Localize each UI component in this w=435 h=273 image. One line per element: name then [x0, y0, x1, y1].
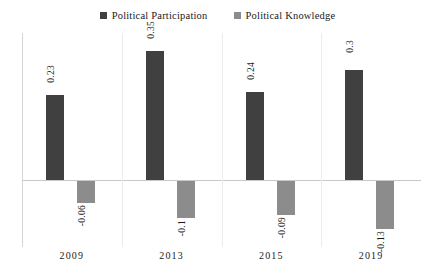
legend-swatch-political-knowledge [234, 12, 241, 19]
x-axis-tick-label: 2013 [122, 250, 222, 261]
x-axis-tick-label: 2009 [22, 250, 122, 261]
bar-value-label: 0.35 [146, 21, 156, 39]
bar-political-knowledge [77, 181, 95, 203]
bar-political-participation [246, 92, 264, 180]
bar-political-participation [345, 70, 363, 180]
x-axis-labels: 2009201320152019 [22, 250, 421, 268]
bar-value-label: -0.1 [177, 220, 187, 236]
chart-legend: Political Participation Political Knowle… [0, 10, 435, 21]
legend-label-political-knowledge: Political Knowledge [246, 10, 336, 21]
plot-area: 0.23-0.060.35-0.10.24-0.090.3-0.13 [22, 33, 421, 247]
bar-value-label: 0.23 [46, 65, 56, 83]
legend-swatch-political-participation [100, 12, 107, 19]
bar-chart: Political Participation Political Knowle… [0, 0, 435, 273]
bar-political-knowledge [277, 181, 295, 215]
bar-political-participation [46, 95, 64, 180]
legend-item-political-knowledge: Political Knowledge [234, 10, 336, 21]
bar-group: 0.35-0.1 [122, 33, 222, 247]
bar-value-label: -0.09 [277, 217, 287, 238]
bar-value-label: -0.06 [77, 205, 87, 226]
bar-value-label: 0.24 [246, 62, 256, 80]
bar-political-participation [146, 51, 164, 180]
bar-value-label: 0.3 [345, 40, 355, 53]
x-axis-tick-label: 2015 [222, 250, 322, 261]
x-axis-tick-label: 2019 [321, 250, 421, 261]
bar-group: 0.3-0.13 [321, 33, 421, 247]
bar-group: 0.23-0.06 [22, 33, 122, 247]
legend-item-political-participation: Political Participation [100, 10, 208, 21]
bar-group: 0.24-0.09 [222, 33, 322, 247]
bar-political-knowledge [177, 181, 195, 218]
legend-label-political-participation: Political Participation [112, 10, 208, 21]
bar-political-knowledge [376, 181, 394, 229]
